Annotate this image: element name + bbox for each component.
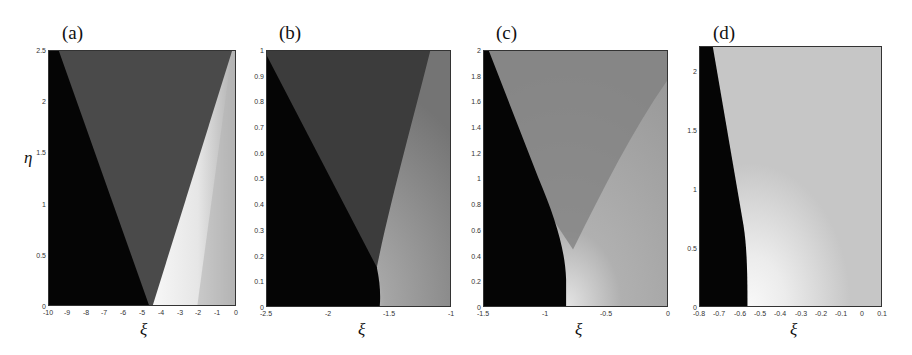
tick: 1.8 <box>471 73 483 80</box>
tick: 0.4 <box>254 201 266 208</box>
tick: -5 <box>139 309 145 316</box>
panel-d-plot <box>699 46 882 307</box>
tick: 1.5 <box>687 127 699 134</box>
tick: 0.2 <box>471 278 483 285</box>
tick: -1 <box>542 310 548 317</box>
tick: 0.8 <box>471 201 483 208</box>
tick: 1.5 <box>36 149 48 156</box>
tick: -0.8 <box>693 310 705 317</box>
panel-b-label: (b) <box>279 22 301 44</box>
tick: -0.4 <box>774 310 786 317</box>
panel-a-plot <box>48 50 236 306</box>
tick: 1 <box>477 175 483 182</box>
tick: 1.2 <box>471 150 483 157</box>
tick: -4 <box>158 309 164 316</box>
tick: 0.7 <box>254 124 266 131</box>
tick: 0.8 <box>254 98 266 105</box>
x-axis-label-c: ξ <box>575 320 582 340</box>
tick: -2 <box>325 310 331 317</box>
tick: 1.6 <box>471 98 483 105</box>
tick: 1 <box>693 186 699 193</box>
tick: -1.5 <box>383 310 395 317</box>
tick: 0.1 <box>254 278 266 285</box>
tick: -7 <box>101 309 107 316</box>
panel-b-plot <box>266 50 451 307</box>
tick: 0 <box>234 309 238 316</box>
tick: -1 <box>214 309 220 316</box>
panel-a-label: (a) <box>62 22 83 44</box>
tick: 0.1 <box>877 310 887 317</box>
tick: 0.6 <box>254 150 266 157</box>
tick: 2.5 <box>36 47 48 54</box>
tick: -0.5 <box>600 310 612 317</box>
x-axis-label-b: ξ <box>358 320 365 340</box>
tick: 0.4 <box>471 253 483 260</box>
tick: 0.5 <box>36 252 48 259</box>
x-axis-label-d: ξ <box>790 320 797 340</box>
tick: 2 <box>42 98 48 105</box>
tick: -0.6 <box>734 310 746 317</box>
tick: -2.5 <box>260 310 272 317</box>
tick: 0 <box>860 310 864 317</box>
tick: -0.5 <box>754 310 766 317</box>
tick: 0.5 <box>687 245 699 252</box>
tick: -6 <box>120 309 126 316</box>
tick: 1 <box>42 201 48 208</box>
tick: 0.9 <box>254 73 266 80</box>
tick: 2 <box>693 68 699 75</box>
tick: 0 <box>666 310 670 317</box>
tick: -3 <box>177 309 183 316</box>
tick: 0.3 <box>254 227 266 234</box>
x-axis-label-a: ξ <box>140 320 147 340</box>
tick: -8 <box>83 309 89 316</box>
y-axis-label: η <box>24 148 32 168</box>
tick: 0.2 <box>254 253 266 260</box>
panel-c-label: (c) <box>496 22 517 44</box>
tick: -1.5 <box>477 310 489 317</box>
panel-d-label: (d) <box>713 22 735 44</box>
tick: -1 <box>448 310 454 317</box>
tick: -2 <box>195 309 201 316</box>
tick: -0.7 <box>713 310 725 317</box>
panel-c-plot <box>483 50 668 307</box>
tick: -9 <box>64 309 70 316</box>
tick: 0.6 <box>471 227 483 234</box>
tick: 1.4 <box>471 124 483 131</box>
tick: -0.3 <box>795 310 807 317</box>
tick: 2 <box>477 47 483 54</box>
tick: -0.2 <box>815 310 827 317</box>
tick: 1 <box>260 47 266 54</box>
tick: -0.1 <box>835 310 847 317</box>
tick: 0.5 <box>254 175 266 182</box>
tick: -10 <box>43 309 53 316</box>
